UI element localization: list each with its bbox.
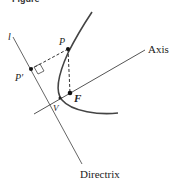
right-angle-marker <box>34 64 44 74</box>
label-f: F <box>73 92 82 104</box>
point-pprime-dot <box>29 67 33 71</box>
label-p-prime: P′ <box>14 72 24 83</box>
point-f-dot <box>68 91 73 96</box>
label-p: P <box>58 36 65 47</box>
label-l: l <box>8 31 11 42</box>
axis-line <box>34 50 145 114</box>
parabola-curve <box>58 12 118 114</box>
label-axis: Axis <box>148 43 169 55</box>
directrix-line <box>13 37 82 164</box>
dashed-p-to-f <box>68 49 70 93</box>
point-p-dot <box>66 47 70 51</box>
label-directrix: Directrix <box>80 168 120 180</box>
parabola-diagram: l P P′ F V Axis Directrix <box>0 0 180 187</box>
point-v-dot <box>59 97 62 100</box>
label-v: V <box>53 103 60 113</box>
